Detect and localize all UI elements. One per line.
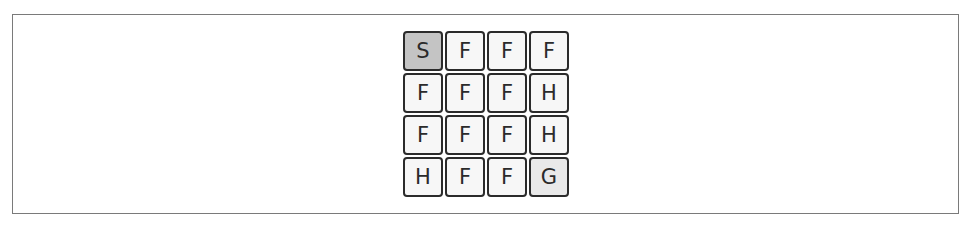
grid-cell-hole: H <box>403 157 443 197</box>
grid-cell-frozen: F <box>445 31 485 71</box>
frozen-lake-grid: S F F F F F F H F F F H H F F G <box>403 31 569 197</box>
grid-cell-frozen: F <box>445 157 485 197</box>
grid-cell-frozen: F <box>403 115 443 155</box>
grid-cell-frozen: F <box>487 31 527 71</box>
grid-cell-hole: H <box>529 73 569 113</box>
grid-cell-frozen: F <box>403 73 443 113</box>
grid-cell-frozen: F <box>445 73 485 113</box>
grid-cell-frozen: F <box>487 157 527 197</box>
grid-cell-hole: H <box>529 115 569 155</box>
grid-cell-frozen: F <box>487 115 527 155</box>
grid-cell-frozen: F <box>529 31 569 71</box>
grid-cell-start: S <box>403 31 443 71</box>
grid-cell-goal: G <box>529 157 569 197</box>
grid-cell-frozen: F <box>445 115 485 155</box>
grid-cell-frozen: F <box>487 73 527 113</box>
